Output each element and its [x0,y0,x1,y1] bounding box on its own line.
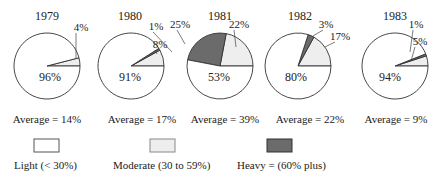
pie-year-label: 1980 [118,9,142,23]
slice-label-heavy: 25% [170,18,190,30]
pie-year-label: 1979 [35,9,59,23]
pie-1982: 198280%17%3%Average = 22% [265,9,350,125]
legend: Light (< 30%)Moderate (30 to 59%)Heavy =… [14,139,326,172]
slice-label-moderate: 4% [74,21,89,33]
pie-1983: 198394%5%1%Average = 9% [362,9,428,125]
slice-label-moderate: 5% [413,35,428,47]
pie-1981: 198153%22%25%Average = 39% [170,9,259,125]
slice-label-light: 80% [285,70,307,84]
slice-label-moderate: 17% [330,30,350,42]
slice-label-light: 53% [208,70,230,84]
average-label: Average = 14% [13,113,81,125]
average-label: Average = 9% [365,113,428,125]
legend-label: Heavy = (60% plus) [237,159,326,172]
pie-slice [14,33,80,99]
legend-label: Light (< 30%) [14,159,77,172]
legend-swatch [150,139,175,152]
average-label: Average = 17% [108,113,176,125]
average-label: Average = 39% [191,113,259,125]
slice-label-light: 91% [119,70,141,84]
slice-label-heavy: 1% [409,18,424,30]
pie-year-label: 1983 [383,9,407,23]
slice-label-heavy: 1% [149,20,164,32]
pie-charts: 197996%4%Average = 14%198091%8%1%Average… [0,0,441,187]
slice-label-light: 94% [379,70,401,84]
legend-swatch [34,139,59,152]
slice-label-light: 96% [39,70,61,84]
legend-swatch [267,139,292,152]
pie-year-label: 1982 [288,9,312,23]
slice-label-heavy: 3% [319,18,334,30]
pie-1980: 198091%8%1%Average = 17% [98,9,176,125]
average-label: Average = 22% [276,113,344,125]
pie-1979: 197996%4%Average = 14% [13,9,88,125]
legend-label: Moderate (30 to 59%) [113,159,211,172]
slice-label-moderate: 22% [229,18,249,30]
